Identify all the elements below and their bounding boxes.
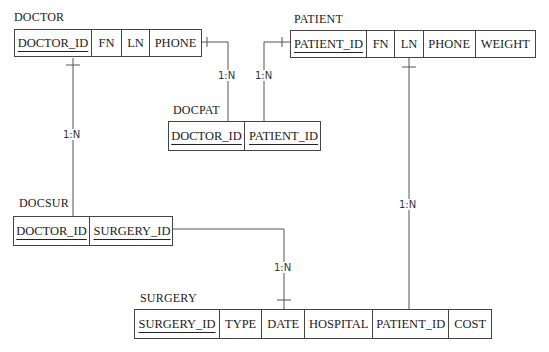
entity-label-docsur: DOCSUR	[19, 196, 69, 211]
field-doctor-id[interactable]: DOCTOR_ID	[169, 122, 245, 150]
field-doctor-id[interactable]: DOCTOR_ID	[14, 217, 90, 245]
cardinality-patient-docpat: 1:N	[254, 70, 273, 81]
entity-label-surgery: SURGERY	[140, 291, 197, 306]
entity-table-docpat[interactable]: DOCTOR_ID PATIENT_ID	[168, 121, 321, 151]
field-patient-id[interactable]: PATIENT_ID	[373, 310, 449, 338]
field-surgery-id[interactable]: SURGERY_ID	[90, 217, 174, 245]
field-surgery-id[interactable]: SURGERY_ID	[135, 310, 220, 338]
field-weight[interactable]: WEIGHT	[476, 31, 535, 57]
entity-label-patient: PATIENT	[294, 12, 343, 27]
entity-label-docpat: DOCPAT	[173, 103, 220, 118]
entity-table-docsur[interactable]: DOCTOR_ID SURGERY_ID	[13, 216, 173, 246]
field-phone[interactable]: PHONE	[150, 30, 201, 56]
field-phone[interactable]: PHONE	[424, 31, 476, 57]
field-date[interactable]: DATE	[262, 310, 305, 338]
entity-table-patient[interactable]: PATIENT_ID FN LN PHONE WEIGHT	[290, 30, 536, 58]
field-patient-id[interactable]: PATIENT_ID	[245, 122, 322, 150]
cardinality-patient-surgery: 1:N	[398, 199, 417, 210]
cardinality-docsur-surgery: 1:N	[273, 262, 292, 273]
field-fn[interactable]: FN	[367, 31, 395, 57]
entity-table-doctor[interactable]: DOCTOR_ID FN LN PHONE	[14, 29, 202, 57]
field-type[interactable]: TYPE	[220, 310, 262, 338]
entity-table-surgery[interactable]: SURGERY_ID TYPE DATE HOSPITAL PATIENT_ID…	[134, 309, 492, 339]
field-fn[interactable]: FN	[92, 30, 122, 56]
field-ln[interactable]: LN	[122, 30, 150, 56]
entity-label-doctor: DOCTOR	[14, 10, 64, 25]
field-cost[interactable]: COST	[449, 310, 491, 338]
field-doctor-id[interactable]: DOCTOR_ID	[15, 30, 92, 56]
field-ln[interactable]: LN	[395, 31, 423, 57]
field-patient-id[interactable]: PATIENT_ID	[291, 31, 367, 57]
field-hospital[interactable]: HOSPITAL	[305, 310, 373, 338]
cardinality-doctor-docsur: 1:N	[62, 129, 81, 140]
cardinality-doctor-docpat: 1:N	[217, 70, 236, 81]
